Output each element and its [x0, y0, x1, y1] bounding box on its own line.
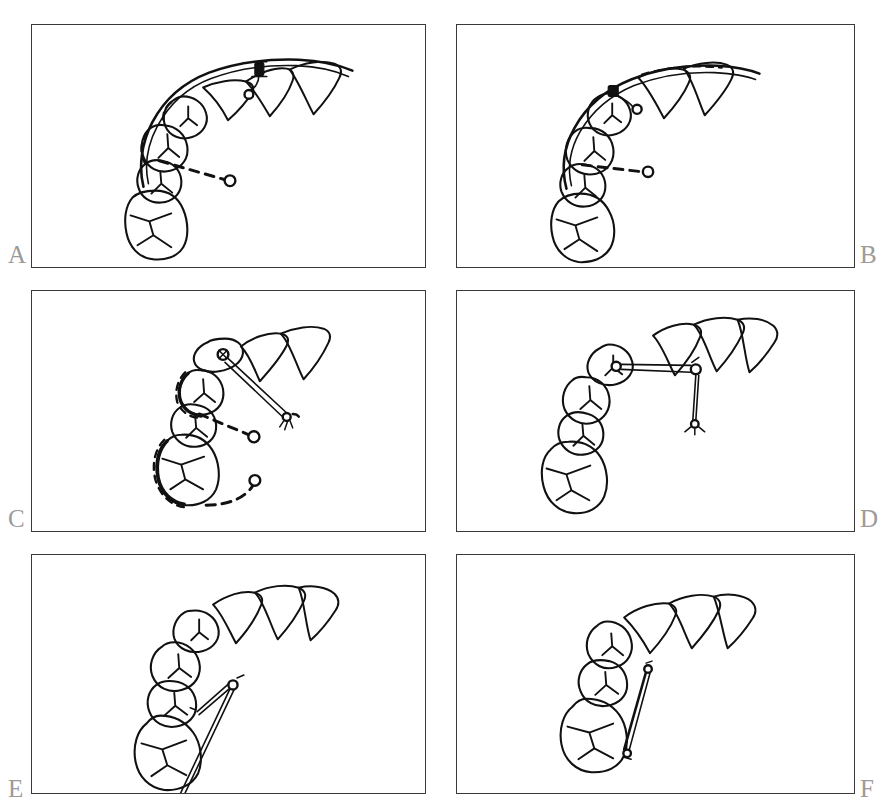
panel-e [31, 554, 426, 794]
connector-wire-upper [621, 364, 691, 365]
fissure-canine [191, 619, 208, 640]
tooth-molar-first [542, 442, 607, 514]
archwire-main [141, 60, 352, 187]
fissure-molar-first [567, 724, 613, 760]
vertical-elastic-line-2 [696, 375, 699, 421]
attachment-stub-upper [646, 661, 652, 663]
panel-label-e: E [8, 776, 24, 798]
fissure-molar-first [556, 217, 597, 251]
tooth-central-incisor-right [290, 62, 341, 114]
panel-f-drawing [457, 555, 854, 793]
fissure-premolar-first [602, 633, 623, 655]
elastic-thread-line-2 [629, 673, 650, 750]
panel-e-drawing [32, 555, 425, 793]
tooth-premolar-second [171, 404, 216, 446]
fissure-canine [180, 106, 197, 126]
fissure-molar-first [130, 213, 171, 247]
fissure-premolar-first [584, 137, 605, 161]
archwire-main [564, 66, 760, 189]
button-attachment-premolar [228, 680, 237, 689]
panel-label-c: C [8, 506, 25, 531]
panel-f [456, 554, 855, 794]
tooth-central-incisor-left [669, 595, 720, 648]
tooth-molar-first [561, 699, 627, 772]
fissure-premolar-second [595, 672, 618, 695]
fissure-molar-first [141, 740, 186, 776]
panel-a [31, 24, 426, 268]
panel-d-drawing [457, 291, 854, 531]
button-attachment [245, 90, 254, 99]
fissure-premolar-second [186, 416, 207, 438]
fissure-molar-first [547, 466, 591, 501]
fissure-molar-first [162, 457, 204, 490]
panel-c [31, 290, 426, 532]
tooth-premolar-second [560, 164, 605, 207]
molar-bold-mesial-edge [157, 441, 184, 504]
fissure-premolar-first [580, 386, 601, 409]
button-attachment-upper [644, 665, 652, 673]
tooth-premolar-second [558, 412, 603, 454]
eyelet-ring-canine [612, 362, 621, 371]
traction-vector-dashed-upper [199, 414, 249, 435]
panel-b-drawing [457, 25, 854, 267]
tooth-canine [173, 611, 218, 653]
anchor-ring-midline [691, 364, 701, 374]
impacted-canine-marker-upper [248, 431, 259, 442]
palatal-anchor-ring [691, 420, 699, 428]
bracket-stop [255, 63, 264, 76]
panel-b [456, 24, 855, 268]
tooth-molar-first [125, 191, 187, 260]
tooth-lateral-incisor [203, 80, 253, 120]
traction-vector-dashed [582, 165, 642, 172]
impacted-canine-marker-lower [249, 475, 260, 486]
fissure-canine [604, 103, 621, 123]
tooth-lateral-incisor [213, 592, 262, 643]
elastic-chain-line-2 [225, 362, 282, 416]
panel-label-f: F [860, 776, 874, 798]
tooth-central-incisor-left [241, 333, 288, 381]
fissure-premolar-second [164, 693, 187, 716]
tooth-central-incisor-left [255, 586, 305, 640]
palatal-anchor-filaments [685, 427, 705, 435]
tooth-central-incisor [684, 63, 733, 116]
impacted-canine-marker [643, 167, 653, 177]
button-attachment [633, 105, 642, 114]
panel-label-d: D [860, 506, 879, 531]
tooth-premolar-first [151, 642, 200, 691]
attachment-stub-lower [624, 757, 631, 759]
tooth-central-incisor-right [281, 327, 330, 379]
panel-label-a: A [8, 242, 27, 267]
elastic-chain-line-1 [228, 358, 286, 412]
panel-c-drawing [32, 291, 425, 531]
tooth-molar-first [551, 194, 614, 263]
anchor-tie-wing [692, 357, 699, 362]
button-attachment-lower [623, 750, 631, 758]
impacted-canine-marker [225, 175, 236, 186]
panel-label-b: B [860, 242, 877, 267]
fissure-premolar-second [573, 424, 594, 446]
tooth-central-incisor-left [694, 318, 744, 372]
fissure-premolar-first [168, 654, 191, 678]
chain-anchor-dashed-loop [293, 414, 300, 422]
panel-a-drawing [32, 25, 425, 267]
vertical-elastic-line-1 [693, 375, 696, 421]
fissure-premolar-first [194, 379, 215, 402]
panel-d [456, 290, 855, 532]
elastic-thread-long-2 [183, 690, 234, 793]
